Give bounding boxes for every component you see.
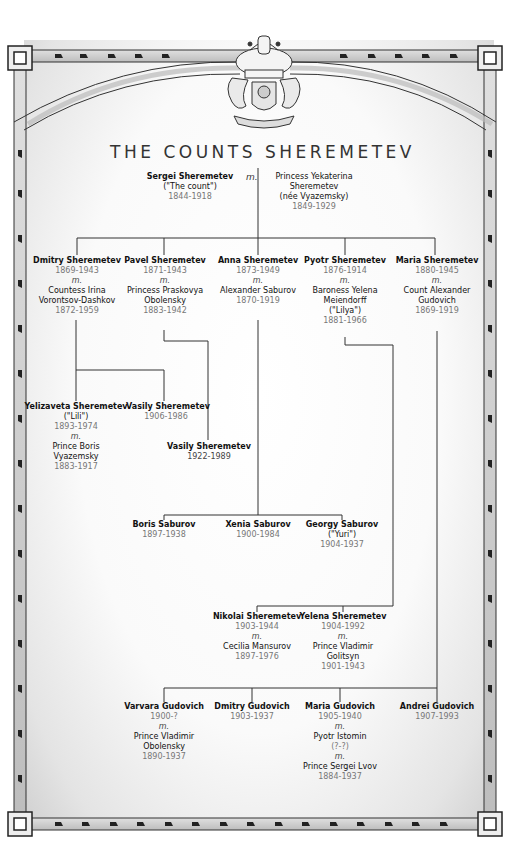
person-nickname: ("The count") <box>140 182 240 192</box>
person-xenia-saburov: Xenia Saburov 1900-1984 <box>218 520 298 540</box>
person-nikolai-sheremetev: Nikolai Sheremetev 1903-1944 m. Cecilia … <box>210 612 304 662</box>
person-yelena-sheremetev: Yelena Sheremetev 1904-1992 m. Prince Vl… <box>298 612 388 672</box>
person-dmitry-sheremetev: Dmitry Sheremetev 1869-1943 m. Countess … <box>27 256 127 316</box>
person-georgy-saburov: Georgy Saburov ("Yuri") 1904-1937 <box>302 520 382 550</box>
person-yelizaveta-sheremetev: Yelizaveta Sheremetev ("Lili") 1893-1974… <box>24 402 128 472</box>
person-maria-gudovich: Maria Gudovich 1905-1940 m. Pyotr Istomi… <box>293 702 387 782</box>
root-spouse: Princess Yekaterina Sheremetev (née Vyaz… <box>264 172 364 212</box>
person-vasily-sheremetev-1906: Vasily Sheremetev 1906-1986 <box>126 402 206 422</box>
person-anna-sheremetev: Anna Sheremetev 1873-1949 m. Alexander S… <box>212 256 304 306</box>
married-symbol: m. <box>246 172 258 182</box>
person-dmitry-gudovich: Dmitry Gudovich 1903-1937 <box>207 702 297 722</box>
page-title: THE COUNTS SHEREMETEV <box>0 142 525 162</box>
person-varvara-gudovich: Varvara Gudovich 1900-? m. Prince Vladim… <box>119 702 209 762</box>
person-andrei-gudovich: Andrei Gudovich 1907-1993 <box>393 702 481 722</box>
person-pavel-sheremetev: Pavel Sheremetev 1871-1943 m. Princess P… <box>118 256 212 316</box>
person-pyotr-sheremetev: Pyotr Sheremetev 1876-1914 m. Baroness Y… <box>298 256 392 326</box>
root-person: Sergei Sheremetev ("The count") 1844-191… <box>140 172 240 202</box>
person-name: Sergei Sheremetev <box>140 172 240 182</box>
family-tree-page: THE COUNTS SHEREMETEV Sergei Sheremetev … <box>0 0 525 856</box>
person-dates: 1844-1918 <box>140 192 240 202</box>
person-maria-sheremetev: Maria Sheremetev 1880-1945 m. Count Alex… <box>392 256 482 316</box>
person-boris-saburov: Boris Saburov 1897-1938 <box>124 520 204 540</box>
person-vasily-sheremetev-1922: Vasily Sheremetev 1922-1989 <box>164 442 254 462</box>
